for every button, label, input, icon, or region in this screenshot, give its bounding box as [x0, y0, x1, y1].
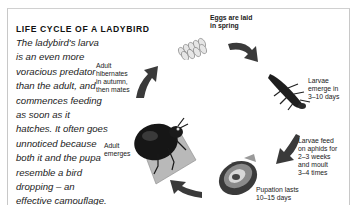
- label-line: 10–15 days: [256, 194, 299, 202]
- stage-label-larvae-feed: Larvae feed on aphids for 2–3 weeks and …: [298, 137, 337, 177]
- label-line: on aphids for: [298, 145, 337, 153]
- label-line: hibernates: [96, 70, 130, 78]
- stage-label-larvae-emerge: Larvae emerge in 3–10 days: [308, 77, 339, 101]
- label-line: then mates: [96, 86, 130, 94]
- label-line: 2–3 weeks: [298, 153, 337, 161]
- label-line: and moult: [298, 161, 337, 169]
- label-line: Adult: [104, 142, 130, 150]
- label-line: emerge in: [308, 85, 339, 93]
- label-line: Larvae feed: [298, 137, 337, 145]
- cycle-arrow-icon: [134, 64, 160, 100]
- stage-label-pupation: Pupation lasts 10–15 days: [256, 186, 299, 202]
- stage-label-adult-hibernates: Adult hibernates in autumn, then mates: [96, 62, 130, 94]
- label-line: Pupation lasts: [256, 186, 299, 194]
- diagram-title: LIFE CYCLE OF A LADYBIRD: [16, 24, 150, 34]
- label-line: in autumn,: [96, 78, 130, 86]
- label-line: Adult: [96, 62, 130, 70]
- stage-label-eggs: Eggs are laid in spring: [210, 14, 252, 30]
- label-line: Larvae: [308, 77, 339, 85]
- label-line: Eggs are laid: [210, 14, 252, 22]
- label-line: in spring: [210, 22, 252, 30]
- label-line: 3–4 times: [298, 169, 337, 177]
- intro-paragraph: The ladybird's larva is an even more vor…: [16, 36, 108, 205]
- label-line: emerges: [104, 150, 130, 158]
- stage-label-adult-emerges: Adult emerges: [104, 142, 130, 158]
- adult-ladybird-icon: [132, 110, 202, 188]
- cycle-arrow-icon: [226, 38, 264, 64]
- egg-cluster-icon: [176, 34, 214, 60]
- label-line: 3–10 days: [308, 93, 339, 101]
